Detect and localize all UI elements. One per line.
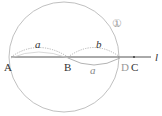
point-a-label: A: [4, 61, 12, 73]
point-c-marker: [133, 56, 135, 58]
arc-ab-label: a: [35, 38, 41, 50]
circle-label: ①: [112, 17, 122, 29]
geometry-diagram: ① l A B D C a b a: [0, 0, 162, 116]
point-c-label: C: [131, 61, 138, 73]
arc-bd-top: [68, 48, 120, 58]
arc-bd-bottom-label: a: [90, 64, 96, 76]
point-d-label: D: [121, 61, 129, 73]
point-b-label: B: [64, 61, 71, 73]
line-label: l: [155, 51, 158, 63]
arc-bd-label: b: [96, 38, 102, 50]
